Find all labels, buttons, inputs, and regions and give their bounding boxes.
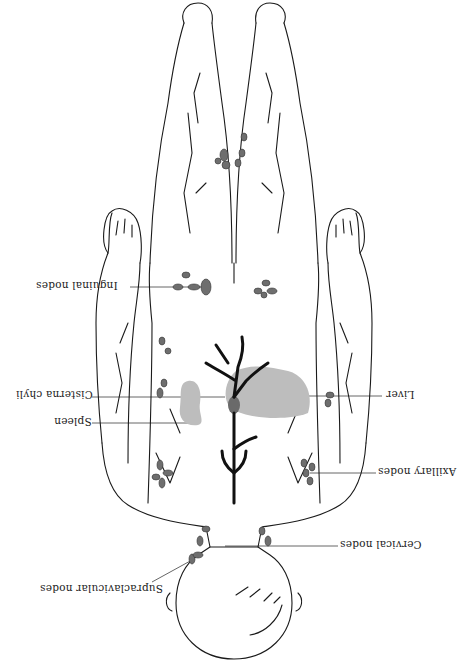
torso-left [148,263,152,503]
fingers-left [116,219,132,237]
cervical-node [197,536,203,546]
shoulder-left [102,443,210,547]
arm-right-outer [356,213,372,443]
popliteal-node [220,149,228,161]
inguinal-node [201,279,211,295]
leg-left-inner [212,23,232,263]
arm-node [326,392,334,398]
inguinal-node [262,280,270,286]
cervical-node [202,526,210,532]
vessels-arm-right [340,323,352,413]
liver-label: Liver [386,389,415,401]
cisterna-chyli-label: Cisterna chyli [16,389,93,401]
hair-line [250,605,282,635]
arm-left-outer [96,213,112,443]
inguinal-node [261,292,267,298]
hair-strokes [236,587,280,603]
fingers-right [336,219,352,237]
popliteal-node [222,161,230,169]
foot-left [183,3,213,23]
shoulder-right [258,443,366,547]
popliteal-node [239,149,245,157]
body-upright [96,3,372,659]
cervical-node [259,527,265,535]
arm-node [159,337,165,345]
spleen-shape [180,381,202,426]
arm-left-inner [128,263,140,463]
cisterna-chyli-shape [228,396,240,414]
arm-node [157,388,163,398]
lymphatic-diagram: Inguinal nodes Cisterna chyli Spleen Sup… [0,0,468,663]
leg-right-outer [284,23,318,263]
foot-right [256,3,286,23]
torso-right [316,263,320,503]
cervical-nodes-label: Cervical nodes [340,539,422,551]
arm-node [325,399,331,407]
inguinal-node [182,272,190,278]
supraclavicular-leader-line [152,560,192,582]
leader-lines [92,287,382,582]
inguinal-node [267,288,277,294]
vessels-leg-right [262,113,284,233]
popliteal-node [215,158,221,164]
arm-right-inner [328,263,340,463]
axillary-node [152,474,160,480]
axillary-node [163,470,173,476]
axillary-node [309,463,315,471]
ear-left [166,593,172,611]
axillary-node [159,478,165,488]
arm-node [165,348,171,354]
body-illustration [0,0,468,663]
vessels-knees [194,73,272,123]
axillary-nodes-label: Axillary nodes [378,466,456,478]
inguinal-node [173,284,183,290]
axillary-node [301,459,307,467]
spleen-label: Spleen [54,416,92,428]
supraclavicular-node [193,552,203,558]
leg-right-inner [236,23,256,263]
inguinal-nodes-label: Inguinal nodes [36,280,118,292]
supraclavicular-nodes-label: Supraclavicular nodes [40,583,163,595]
axillary-node [303,469,309,477]
popliteal-node [235,159,241,167]
arm-node [161,379,167,387]
inguinal-node [188,284,200,290]
leg-left-outer [150,23,184,263]
thoracic-duct [206,337,268,503]
axillary-node [307,477,313,485]
vessels-leg-left [184,113,206,233]
inguinal-node [254,288,262,294]
vessels-arm-left [116,323,128,413]
popliteal-node [241,133,247,141]
cervical-node [265,536,271,546]
axillary-node [157,460,163,470]
ear-right [296,593,302,611]
